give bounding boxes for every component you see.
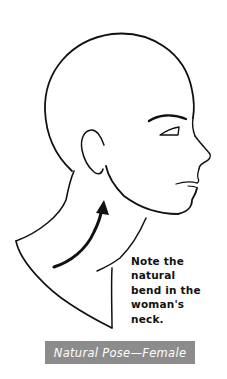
forehead-line [193, 118, 195, 136]
ear [81, 130, 104, 174]
annotation-line: natural [131, 268, 221, 282]
shoulder-line [16, 241, 112, 328]
chin-jaw [106, 166, 197, 214]
annotation-line: neck. [131, 312, 221, 326]
neck-back [16, 171, 74, 241]
caption-bar: Natural Pose—Female [45, 341, 195, 364]
annotation-line: Note the [131, 254, 221, 268]
annotation-line: woman's [131, 297, 221, 311]
eyebrow [149, 115, 186, 121]
eye [160, 127, 179, 135]
skull-outline [45, 34, 194, 171]
curved-arrow-up-icon [54, 200, 109, 267]
annotation-note: Note the natural bend in the woman's nec… [131, 254, 221, 326]
nose-line [195, 136, 210, 169]
mouth-line [176, 182, 197, 184]
annotation-line: bend in the [131, 283, 221, 297]
lower-lip [188, 186, 197, 188]
upper-lip [197, 169, 199, 183]
figure-caption: Natural Pose—Female [54, 346, 187, 360]
